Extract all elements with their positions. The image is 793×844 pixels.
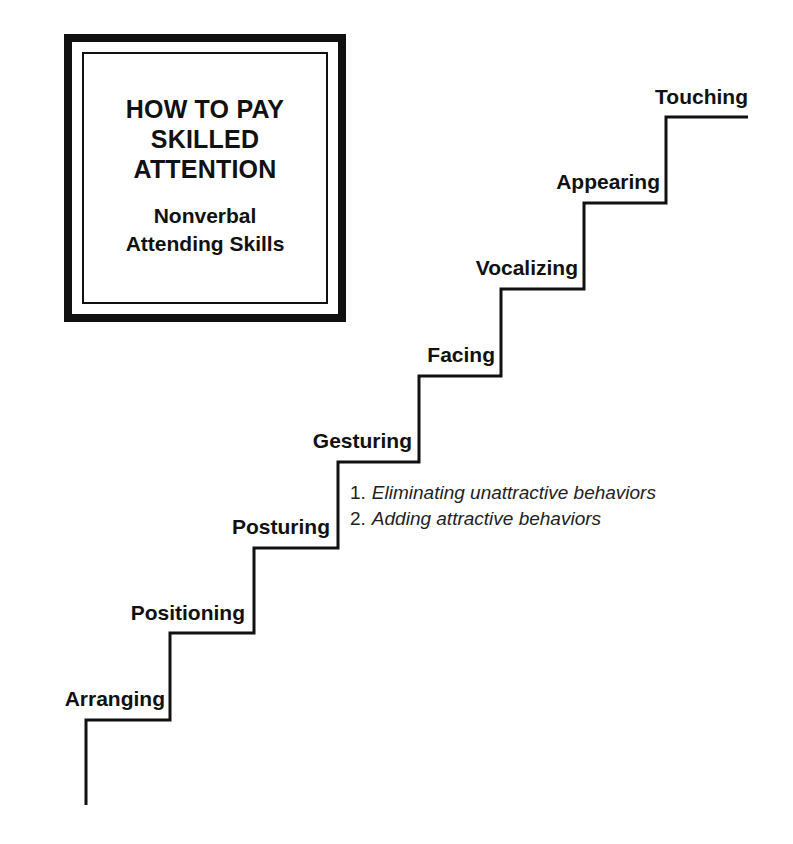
note-text: Eliminating unattractive behaviors [372, 482, 656, 503]
staircase-diagram [0, 0, 793, 844]
step-gesturing: Gesturing [313, 429, 412, 453]
step-facing: Facing [427, 343, 495, 367]
note-number: 1. [350, 482, 366, 503]
step-appearing: Appearing [556, 170, 660, 194]
step-positioning: Positioning [131, 601, 245, 625]
gesturing-notes: 1.Eliminating unattractive behaviors 2.A… [350, 480, 656, 532]
note-item: 2.Adding attractive behaviors [350, 506, 656, 532]
note-number: 2. [350, 508, 366, 529]
note-text: Adding attractive behaviors [372, 508, 601, 529]
note-item: 1.Eliminating unattractive behaviors [350, 480, 656, 506]
step-vocalizing: Vocalizing [476, 256, 578, 280]
step-touching: Touching [655, 85, 748, 109]
step-posturing: Posturing [232, 515, 330, 539]
step-arranging: Arranging [65, 687, 165, 711]
